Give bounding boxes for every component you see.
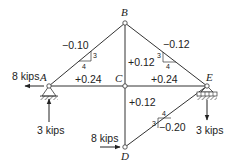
force-label-AB: −0.10: [62, 39, 89, 51]
joint-B: [123, 21, 127, 25]
tri-DE-rise: 3: [152, 120, 156, 127]
load-label-A-horizontal: 8 kips: [12, 70, 39, 82]
joint-D: [123, 145, 127, 149]
force-label-BC: +0.12: [128, 56, 155, 68]
joint-E: [205, 84, 209, 88]
force-label-AC: +0.24: [75, 73, 102, 85]
node-label-C: C: [115, 72, 123, 84]
force-label-DE: −0.20: [159, 121, 186, 133]
tri-AB-run: 4: [82, 63, 86, 70]
load-label-D-horizontal: 8 kips: [91, 132, 118, 144]
tri-BE-run: 4: [166, 63, 170, 70]
force-label-CE: +0.24: [151, 73, 178, 85]
node-label-D: D: [120, 150, 129, 162]
node-label-A: A: [39, 71, 47, 83]
tri-AB-rise: 3: [93, 52, 97, 59]
force-label-CD: +0.12: [129, 96, 156, 108]
force-label-BE: −0.12: [163, 38, 190, 50]
load-label-A-vertical: 3 kips: [37, 124, 64, 136]
joint-C: [123, 84, 127, 88]
tri-BE-rise: 3: [157, 52, 161, 59]
truss-diagram: 3 4 3 4 3 4 8 kips 3 kips 8 kips 3 kips …: [0, 0, 236, 166]
tri-DE-run: 4: [162, 110, 166, 117]
node-label-B: B: [121, 6, 128, 18]
joint-A: [47, 84, 51, 88]
load-label-E-vertical: 3 kips: [196, 124, 223, 136]
node-label-E: E: [205, 71, 213, 83]
